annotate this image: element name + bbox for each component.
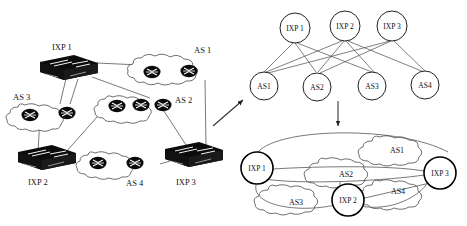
bipartite-ixp1-label: IXP 1 (286, 24, 304, 33)
bipartite-ixp3-label: IXP 3 (383, 22, 401, 31)
as1-label: AS 1 (194, 45, 211, 55)
as-level-as3-label: AS3 (289, 198, 303, 207)
bipartite-node-ixp1: IXP 1 (280, 13, 310, 43)
as-cloud-as1 (128, 54, 198, 85)
bipartite-as3-label: AS3 (365, 82, 379, 91)
network-diagram: AS 1 AS 2 AS 3 AS 4 (0, 0, 467, 226)
as-level-cloud-as1: AS1 (358, 136, 422, 166)
as-cloud-as2 (94, 96, 172, 124)
as-level-node-ixp2: IXP 2 (332, 184, 364, 216)
as-level-cloud-as2: AS2 (304, 158, 368, 188)
panel-as-level-graph: AS1 AS2 AS3 AS4 IXP 1 (241, 133, 456, 216)
bipartite-node-as4: AS4 (411, 71, 439, 99)
panel-physical-topology: AS 1 AS 2 AS 3 AS 4 (6, 42, 223, 188)
as3-label: AS 3 (13, 92, 30, 102)
bipartite-as1-label: AS1 (257, 82, 271, 91)
as-level-as4-label: AS4 (391, 187, 405, 196)
arrow-to-bipartite (213, 100, 243, 126)
as-level-ixp2-label: IXP 2 (339, 196, 357, 205)
bipartite-top-nodes: IXP 1 IXP 2 IXP 3 (280, 11, 407, 43)
bipartite-node-ixp2: IXP 2 (330, 11, 360, 41)
as-level-node-ixp1: IXP 1 (241, 152, 273, 184)
bipartite-node-as3: AS3 (358, 72, 386, 100)
ixp1-label: IXP 1 (52, 42, 72, 52)
as-cloud-as4 (76, 152, 144, 180)
as-level-as1-label: AS1 (390, 146, 404, 155)
bipartite-node-ixp3: IXP 3 (377, 11, 407, 41)
as2-label: AS 2 (175, 95, 192, 105)
bipartite-as4-label: AS4 (418, 81, 432, 90)
bipartite-as2-label: AS2 (310, 83, 324, 92)
bipartite-ixp2-label: IXP 2 (336, 22, 354, 31)
figure-canvas: AS 1 AS 2 AS 3 AS 4 (0, 0, 467, 226)
ixp-switch-ixp3 (165, 142, 223, 167)
as4-label: AS 4 (126, 178, 144, 188)
ixp2-label: IXP 2 (28, 177, 48, 187)
bipartite-bottom-nodes: AS1 AS2 AS3 AS4 (250, 71, 439, 101)
bipartite-node-as2: AS2 (303, 73, 331, 101)
bipartite-node-as1: AS1 (250, 72, 278, 100)
ixp-switch-ixp1 (40, 55, 98, 80)
ixp-switch-ixp2 (18, 145, 76, 170)
as-cloud-as3 (6, 104, 76, 132)
ixp3-label: IXP 3 (176, 177, 196, 187)
as-level-node-ixp3: IXP 3 (424, 157, 456, 189)
as-level-ixp3-label: IXP 3 (431, 169, 449, 178)
panel-bipartite-graph: IXP 1 IXP 2 IXP 3 AS1 AS2 (250, 11, 439, 101)
as-level-ixp1-label: IXP 1 (248, 164, 266, 173)
as-level-as2-label: AS2 (339, 170, 353, 179)
bipartite-edges (264, 41, 426, 73)
